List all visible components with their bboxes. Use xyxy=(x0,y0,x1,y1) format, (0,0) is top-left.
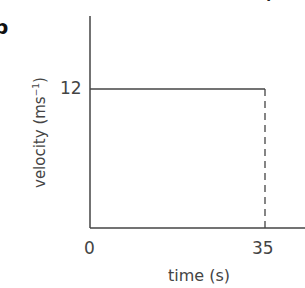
y-axis-label-base: velocity (ms xyxy=(31,96,49,188)
cropped-fragment: · xyxy=(266,0,271,8)
y-axis-label-close: ) xyxy=(31,77,49,83)
panel-label: b xyxy=(0,17,8,37)
y-tick-12: 12 xyxy=(60,80,82,97)
y-axis-label: velocity (ms−1) xyxy=(32,77,48,188)
x-tick-0: 0 xyxy=(84,240,95,257)
y-axis-label-exponent: −1 xyxy=(31,83,41,96)
x-tick-35: 35 xyxy=(252,240,274,257)
x-axis-label: time (s) xyxy=(168,268,230,284)
